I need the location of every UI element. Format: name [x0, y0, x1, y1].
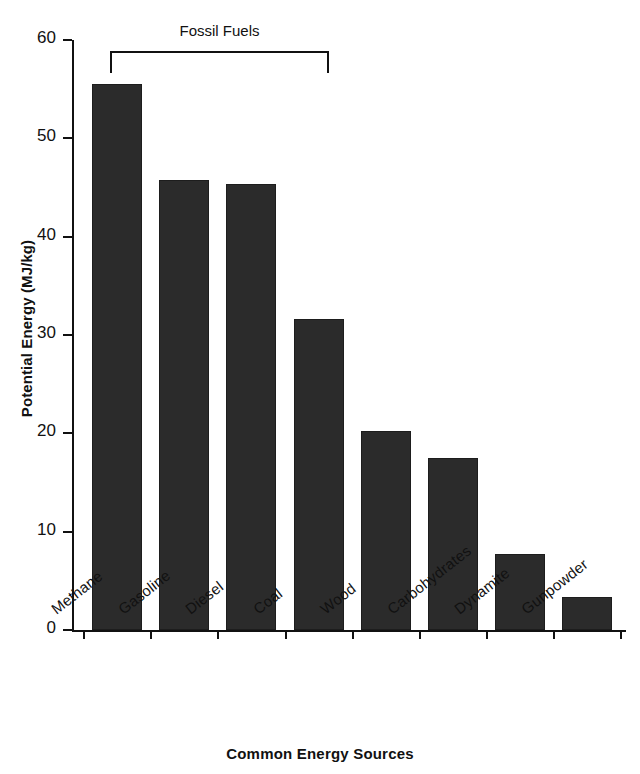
y-tick-label: 20 — [37, 421, 56, 441]
y-tick: 50 — [63, 137, 72, 139]
x-tick — [83, 630, 85, 639]
y-tick-label: 0 — [47, 618, 56, 638]
bar — [226, 184, 276, 630]
y-tick-label: 50 — [37, 126, 56, 146]
plot-area: 0102030405060 — [72, 40, 626, 630]
bar — [562, 597, 612, 630]
y-tick: 20 — [63, 432, 72, 434]
fossil-fuels-label: Fossil Fuels — [110, 22, 329, 39]
y-tick-label: 10 — [37, 520, 56, 540]
x-tick — [150, 630, 152, 639]
y-axis-title: Potential Energy (MJ/kg) — [18, 199, 35, 459]
x-tick — [553, 630, 555, 639]
bar — [159, 180, 209, 630]
y-tick-label: 40 — [37, 225, 56, 245]
x-tick — [419, 630, 421, 639]
bar-chart-figure: Potential Energy (MJ/kg) Fossil Fuels 01… — [0, 0, 640, 774]
x-axis-title: Common Energy Sources — [0, 745, 640, 762]
x-tick — [486, 630, 488, 639]
y-axis-line — [72, 40, 74, 630]
x-tick — [352, 630, 354, 639]
y-tick-label: 30 — [37, 323, 56, 343]
y-tick-label: 60 — [37, 28, 56, 48]
bar — [294, 319, 344, 630]
x-tick — [620, 630, 622, 639]
y-tick: 40 — [63, 236, 72, 238]
x-axis-line — [72, 630, 626, 632]
x-tick — [217, 630, 219, 639]
y-tick: 60 — [63, 39, 72, 41]
y-tick: 30 — [63, 334, 72, 336]
x-tick — [285, 630, 287, 639]
y-tick: 0 — [63, 629, 72, 631]
bar — [92, 84, 142, 630]
y-tick: 10 — [63, 531, 72, 533]
